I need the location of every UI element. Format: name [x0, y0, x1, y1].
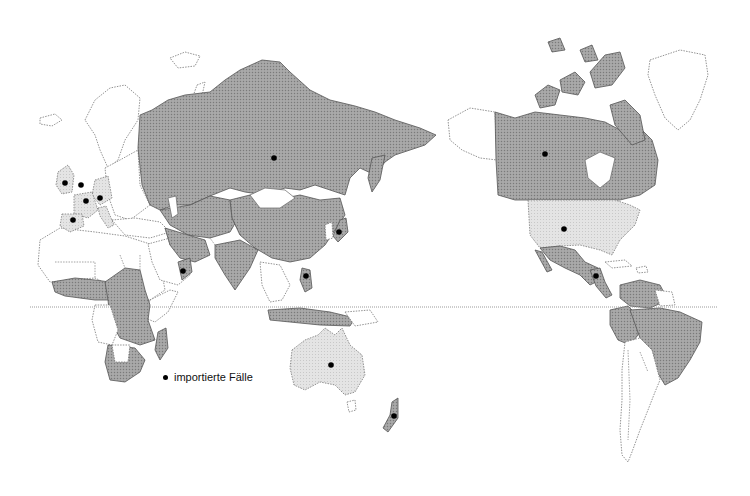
arctic-islands-4: [580, 45, 598, 62]
marker-france: [83, 198, 89, 204]
italy: [98, 206, 114, 228]
marker-australia: [328, 362, 334, 368]
legend-label: importierte Fälle: [174, 371, 253, 383]
iceland: [40, 114, 62, 126]
australia: [290, 328, 365, 395]
marker-guatemala: [593, 273, 599, 279]
cuba: [605, 260, 632, 268]
indonesia: [268, 308, 355, 326]
marker-netherlands: [78, 182, 84, 188]
svalbard: [170, 52, 200, 68]
legend-marker-icon: [163, 375, 168, 380]
turkey: [112, 218, 170, 238]
hispaniola: [636, 266, 648, 273]
arctic-islands-5: [548, 38, 565, 52]
marker-germany: [97, 195, 103, 201]
russia: [138, 60, 436, 210]
tasmania: [347, 400, 356, 412]
marker-spain: [70, 217, 76, 223]
marker-philippines: [303, 273, 309, 279]
legend: importierte Fälle: [163, 371, 253, 383]
world-map: [0, 0, 750, 496]
united-states: [528, 200, 640, 255]
arctic-islands-1: [535, 85, 560, 108]
india: [215, 240, 258, 290]
marker-japan: [336, 229, 342, 235]
southeast-asia: [260, 262, 290, 302]
alaska: [448, 108, 497, 160]
arctic-islands-2: [560, 72, 585, 95]
botswana: [112, 345, 130, 362]
korea: [325, 222, 333, 240]
marker-oman: [180, 268, 186, 274]
marker-canada: [542, 151, 548, 157]
marker-united-states: [561, 226, 567, 232]
greenland: [648, 50, 708, 130]
philippines: [300, 268, 312, 292]
north-america: [448, 38, 708, 298]
united-kingdom: [56, 165, 74, 194]
marker-united-kingdom: [62, 180, 68, 186]
marker-new-zealand: [391, 413, 397, 419]
marker-russia: [271, 155, 277, 161]
madagascar: [155, 328, 168, 360]
oceania: [290, 310, 398, 432]
